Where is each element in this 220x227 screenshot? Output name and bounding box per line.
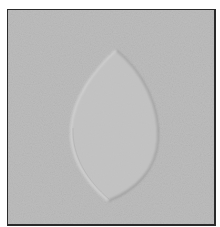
surface-grain: [8, 10, 214, 224]
photo-frame: [7, 9, 216, 226]
embossed-leaf-photo: [8, 10, 214, 224]
